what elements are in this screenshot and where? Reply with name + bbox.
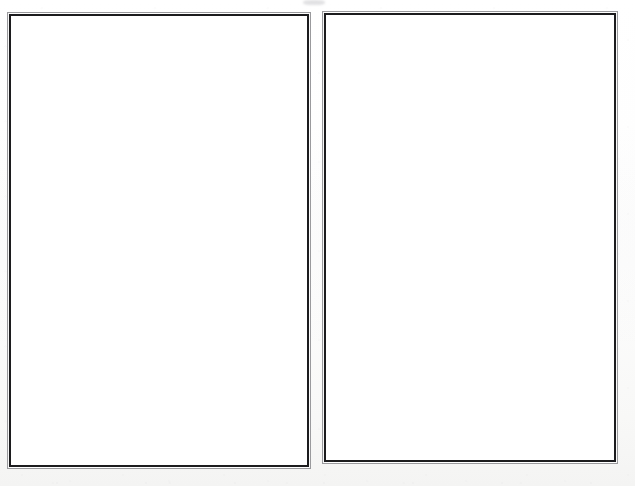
left-blank-frame[interactable] bbox=[7, 12, 311, 469]
right-frame-inner-rule bbox=[324, 13, 616, 462]
right-frame-content-area[interactable] bbox=[328, 17, 612, 458]
right-blank-frame[interactable] bbox=[322, 11, 618, 464]
left-frame-inner-rule bbox=[9, 14, 309, 467]
left-frame-content-area[interactable] bbox=[13, 18, 305, 463]
scanned-page bbox=[0, 0, 635, 486]
